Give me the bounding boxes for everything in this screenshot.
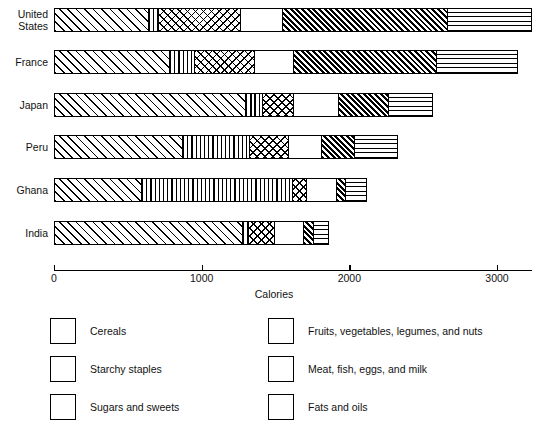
bar-segment-cereals [55,222,243,244]
bar-segment-fats-and-oils [346,179,366,201]
bar-row: Ghana [0,178,546,202]
legend-label-cereals: Cereals [90,325,126,337]
category-label: United States [0,8,48,32]
bar-segment-meat-fish-eggs-and-milk [339,94,389,116]
bar-segment-cereals [55,9,149,31]
bar-segment-meat-fish-eggs-and-milk [337,179,346,201]
bar-segment-meat-fish-eggs-and-milk [304,222,315,244]
bar-segment-fats-and-oils [355,136,397,158]
legend-item-cereals: Cereals [50,318,126,344]
bar-segment-starchy-staples [142,179,293,201]
bar-segment-starchy-staples [246,94,263,116]
x-tick [349,265,350,270]
legend-label-fruits-vegetables: Fruits, vegetables, legumes, and nuts [308,325,483,337]
legend-item-fruits-vegetables: Fruits, vegetables, legumes, and nuts [268,318,483,344]
x-axis-line [54,270,532,271]
bar-segment-fats-and-oils [448,9,531,31]
x-axis-title: Calories [204,288,344,300]
bar-segment-sugars-and-sweets [159,9,241,31]
stacked-bar [54,221,329,245]
legend-swatch-fats-and-oils-icon [268,394,294,420]
bar-row: Peru [0,135,546,159]
category-label: Peru [0,141,48,153]
bar-segment-fats-and-oils [314,222,328,244]
legend-swatch-cereals-icon [50,318,76,344]
legend: Cereals Starchy staples Sugars and sweet… [0,310,546,425]
bar-segment-cereals [55,136,183,158]
bar-segment-cereals [55,94,246,116]
bar-segment-fruits-vegetables-legumes-and-nuts [294,94,339,116]
x-tick [202,265,203,270]
x-tick-label: 3000 [472,272,522,284]
legend-label-sugars-and-sweets: Sugars and sweets [90,401,179,413]
x-tick [497,265,498,270]
bar-segment-sugars-and-sweets [263,94,295,116]
bar-segment-fats-and-oils [437,51,518,73]
bar-segment-fruits-vegetables-legumes-and-nuts [289,136,322,158]
legend-label-starchy-staples: Starchy staples [90,363,162,375]
legend-item-meat-fish-eggs-milk: Meat, fish, eggs, and milk [268,356,427,382]
bar-segment-sugars-and-sweets [249,222,275,244]
category-label: Japan [0,99,48,111]
bar-row: France [0,50,546,74]
bar-segment-starchy-staples [149,9,159,31]
bar-segment-meat-fish-eggs-and-milk [294,51,437,73]
category-label: Ghana [0,184,48,196]
x-tick [54,265,55,270]
category-label: India [0,227,48,239]
bar-segment-fruits-vegetables-legumes-and-nuts [255,51,294,73]
bar-segment-fruits-vegetables-legumes-and-nuts [275,222,304,244]
bar-segment-sugars-and-sweets [195,51,255,73]
legend-item-fats-and-oils: Fats and oils [268,394,368,420]
legend-item-starchy-staples: Starchy staples [50,356,162,382]
bar-segment-fruits-vegetables-legumes-and-nuts [307,179,338,201]
bar-segment-cereals [55,179,142,201]
bar-segment-meat-fish-eggs-and-milk [283,9,448,31]
stacked-bar [54,50,518,74]
category-label: France [0,56,48,68]
bar-segment-cereals [55,51,170,73]
bar-row: Japan [0,93,546,117]
bar-segment-fats-and-oils [389,94,432,116]
legend-swatch-meat-fish-eggs-milk-icon [268,356,294,382]
stacked-bar [54,135,398,159]
legend-swatch-fruits-vegetables-icon [268,318,294,344]
x-tick-label: 1000 [177,272,227,284]
stacked-bar-chart: United StatesFranceJapanPeruGhanaIndia 0… [0,0,546,425]
stacked-bar [54,8,532,32]
legend-swatch-starchy-staples-icon [50,356,76,382]
bar-segment-sugars-and-sweets [293,179,307,201]
bar-segment-sugars-and-sweets [250,136,289,158]
x-tick-label: 0 [29,272,79,284]
bar-segment-starchy-staples [170,51,196,73]
bar-row: India [0,221,546,245]
stacked-bar [54,178,367,202]
x-tick-label: 2000 [324,272,374,284]
legend-label-meat-fish-eggs-milk: Meat, fish, eggs, and milk [308,363,427,375]
legend-label-fats-and-oils: Fats and oils [308,401,368,413]
legend-item-sugars-and-sweets: Sugars and sweets [50,394,179,420]
bar-segment-starchy-staples [183,136,250,158]
bar-segment-meat-fish-eggs-and-milk [322,136,355,158]
stacked-bar [54,93,433,117]
bar-segment-fruits-vegetables-legumes-and-nuts [241,9,283,31]
bar-row: United States [0,8,546,32]
legend-swatch-sugars-and-sweets-icon [50,394,76,420]
